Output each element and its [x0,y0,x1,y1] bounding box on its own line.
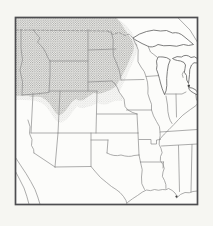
state-line-la-ms [163,162,164,168]
mississippi-river-delta [175,195,177,197]
us-range-map [0,0,213,226]
state-line-in-oh [176,94,177,117]
lake-st-clair [188,85,190,87]
border-nm-mexico [55,167,91,168]
state-line-mn-ia [121,80,144,81]
range-map-figure [0,0,213,226]
